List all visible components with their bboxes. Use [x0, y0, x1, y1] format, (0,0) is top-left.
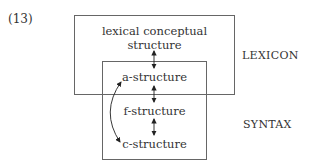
arrow-a-c-curved	[110, 82, 121, 142]
diagram-arrows	[0, 0, 309, 166]
